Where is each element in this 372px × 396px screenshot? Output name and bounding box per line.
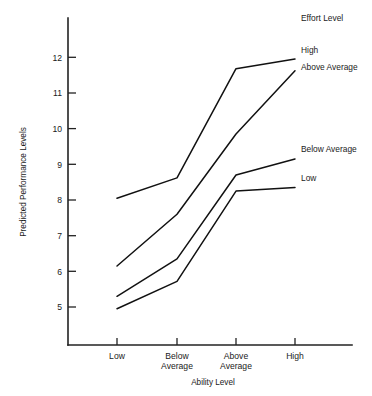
y-tick-label-7: 7 (57, 231, 62, 241)
y-tick-label-11: 11 (53, 88, 62, 98)
legend-label-below-average: Below Average (301, 144, 357, 154)
x-axis-tick-labels: Low Below Average Above Average High (109, 351, 304, 371)
series-line-high (117, 59, 295, 198)
legend-entries: High Above Average Below Average Low (301, 45, 358, 183)
y-axis-ticks (68, 57, 76, 307)
x-tick-label-above-average-line1: Above (224, 351, 249, 361)
line-chart-svg: 12 11 10 9 8 7 6 5 Low Below Average Abo… (0, 0, 372, 396)
x-tick-label-high: High (286, 351, 304, 361)
series-line-low (117, 188, 295, 309)
y-tick-label-8: 8 (57, 195, 62, 205)
legend-label-above-average: Above Average (301, 62, 358, 72)
figure-caption (8, 378, 364, 390)
x-tick-label-above-average-line2: Average (220, 361, 252, 371)
series-group (117, 59, 295, 309)
x-tick-label-below-average-line1: Below (165, 351, 189, 361)
x-axis-ticks (117, 338, 295, 345)
legend-label-high: High (301, 45, 319, 55)
y-tick-label-5: 5 (57, 302, 62, 312)
x-tick-label-below-average-line2: Average (161, 361, 193, 371)
y-axis-tick-labels: 12 11 10 9 8 7 6 5 (52, 53, 62, 313)
series-line-below-average (117, 159, 295, 296)
y-tick-label-6: 6 (57, 267, 62, 277)
y-tick-label-9: 9 (57, 160, 62, 170)
chart-figure: 12 11 10 9 8 7 6 5 Low Below Average Abo… (0, 0, 372, 396)
y-axis-title: Predicted Performance Levels (19, 127, 28, 237)
x-tick-label-low: Low (109, 351, 126, 361)
legend-label-low: Low (301, 173, 317, 183)
y-tick-label-10: 10 (52, 124, 62, 134)
y-tick-label-12: 12 (52, 53, 62, 63)
legend-title: Effort Level (301, 13, 343, 23)
